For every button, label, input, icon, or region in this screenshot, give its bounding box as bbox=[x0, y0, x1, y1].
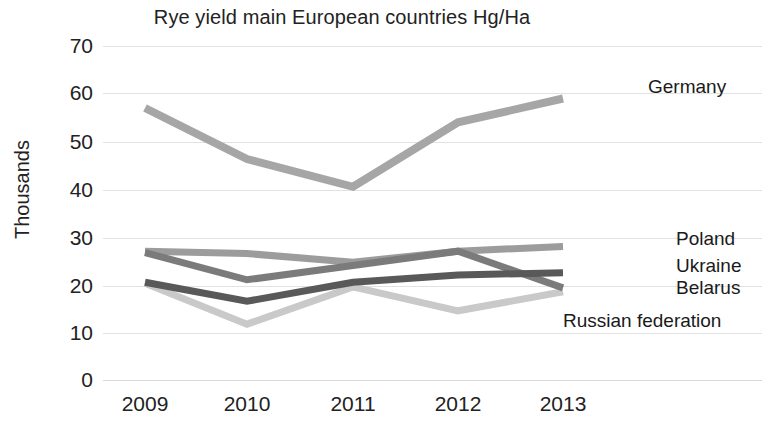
x-tick-2013: 2013 bbox=[540, 392, 587, 416]
x-tick-2009: 2009 bbox=[122, 392, 169, 416]
chart-title-text: Rye yield main European countries Hg/Ha bbox=[154, 6, 530, 28]
series-label-belarus: Belarus bbox=[676, 277, 740, 299]
y-tick-0: 0 bbox=[35, 368, 103, 392]
x-tick-2010: 2010 bbox=[224, 392, 271, 416]
line-germany bbox=[145, 98, 563, 186]
series-label-russian-federation: Russian federation bbox=[563, 310, 721, 332]
chart-container: Rye yield main European countries Hg/Ha … bbox=[0, 0, 772, 441]
y-tick-60: 60 bbox=[35, 81, 103, 105]
y-tick-40: 40 bbox=[35, 178, 103, 202]
series-label-germany: Germany bbox=[648, 76, 726, 98]
y-tick-70: 70 bbox=[35, 34, 103, 58]
y-tick-20: 20 bbox=[35, 274, 103, 298]
y-tick-30: 30 bbox=[35, 226, 103, 250]
x-tick-2011: 2011 bbox=[330, 392, 375, 416]
y-tick-50: 50 bbox=[35, 130, 103, 154]
line-russian-federation bbox=[145, 283, 563, 324]
x-tick-2012: 2012 bbox=[435, 392, 482, 416]
line-poland bbox=[145, 246, 563, 262]
y-axis-title: Thousands bbox=[11, 130, 34, 250]
series-label-poland: Poland bbox=[676, 228, 735, 250]
series-label-ukraine: Ukraine bbox=[676, 255, 741, 277]
y-tick-10: 10 bbox=[35, 321, 103, 345]
chart-title: Rye yield main European countries Hg/Ha bbox=[0, 6, 772, 29]
